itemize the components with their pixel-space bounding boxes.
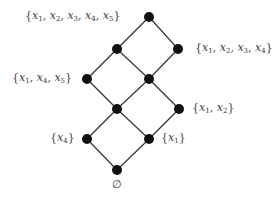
node-label-bottom: ∅ [112,178,122,192]
node-h [144,134,154,144]
node-d [144,74,154,84]
edge-h-bottom [117,139,149,170]
edge-d-e [117,79,149,109]
node-label-top: {x1, x2, x3, x4, x5} [25,9,120,26]
node-label-b: {x1, x2, x3, x4} [195,41,273,58]
node-label-g: {x4} [50,131,75,148]
node-label-c: {x1, x4, x5} [12,71,72,88]
node-a [112,44,122,54]
lattice-diagram [0,0,277,199]
edge-a-c [87,49,117,79]
edge-top-b [149,17,178,49]
edge-top-a [117,17,149,49]
edge-c-e [87,79,117,109]
node-c [82,74,92,84]
edge-a-d [117,49,149,79]
edge-d-f [149,79,179,109]
node-b [173,44,183,54]
node-label-h: {x1} [161,131,186,148]
edge-e-g [87,109,117,139]
node-bottom [112,165,122,175]
node-g [82,134,92,144]
node-f [174,104,184,114]
node-label-f: {x1, x2} [192,101,234,118]
edge-b-d [149,49,178,79]
node-e [112,104,122,114]
edge-g-bottom [87,139,117,170]
node-top [144,12,154,22]
edge-e-h [117,109,149,139]
